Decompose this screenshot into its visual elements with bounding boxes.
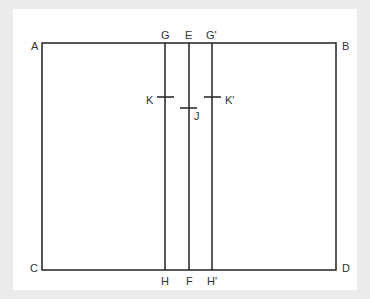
label-E: E: [185, 29, 192, 41]
label-K-prime: K': [225, 94, 234, 106]
label-C: C: [30, 262, 38, 274]
label-G-prime: G': [206, 29, 217, 41]
label-B: B: [342, 40, 349, 52]
label-K: K: [146, 94, 154, 106]
label-F: F: [186, 275, 193, 287]
label-H: H: [161, 275, 169, 287]
label-G: G: [161, 29, 170, 41]
label-J: J: [194, 110, 200, 122]
label-H-prime: H': [207, 275, 217, 287]
label-D: D: [342, 262, 350, 274]
line-diagram: A B C D G E G' H F H' K J K': [0, 0, 370, 299]
label-A: A: [31, 40, 39, 52]
